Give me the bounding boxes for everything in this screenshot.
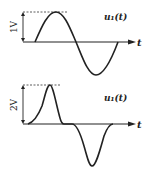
bottom-signal-label: u₁(t) — [104, 93, 127, 103]
bottom-amplitude-label: 2V — [9, 98, 19, 111]
top-amp-arrow-up-icon — [21, 12, 25, 16]
bottom-axis-arrow-icon — [128, 122, 136, 127]
bottom-pulse-waveform — [28, 85, 113, 166]
top-signal-label: u₁(t) — [104, 12, 127, 22]
bottom-amp-arrow-up-icon — [21, 85, 25, 89]
top-axis-label: t — [137, 37, 142, 48]
waveform-diagram: t 1V u₁(t) t 2V u₁(t) — [0, 0, 147, 183]
top-axis-arrow-icon — [128, 40, 136, 45]
bottom-axis-label: t — [137, 119, 142, 130]
top-graph: t 1V u₁(t) — [9, 12, 142, 75]
bottom-graph: t 2V u₁(t) — [9, 85, 142, 166]
top-amplitude-label: 1V — [9, 20, 19, 33]
